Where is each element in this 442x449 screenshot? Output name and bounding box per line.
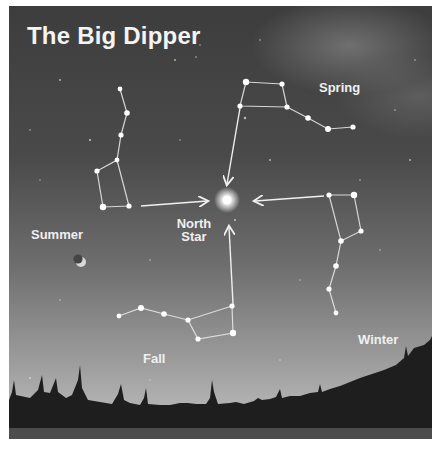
arrow-fall — [229, 227, 233, 304]
north-star-label: North Star — [173, 217, 215, 243]
label-spring: Spring — [319, 80, 360, 95]
foreground-strip — [9, 428, 432, 439]
star-icon — [214, 187, 240, 213]
north-star-label-line2: Star — [173, 230, 215, 243]
arrow-summer — [141, 201, 207, 206]
label-winter: Winter — [358, 332, 398, 347]
big-dipper-diagram: The Big Dipper Spring Summer Fall Winter… — [9, 6, 432, 439]
crescent-moon-icon — [73, 254, 86, 267]
treeline-silhouette — [9, 336, 432, 439]
arrow-winter — [255, 196, 324, 201]
label-summer: Summer — [31, 227, 83, 242]
page-title: The Big Dipper — [27, 22, 200, 50]
label-fall: Fall — [143, 351, 165, 366]
arrow-spring — [227, 108, 240, 184]
sky-diagram — [9, 6, 432, 439]
